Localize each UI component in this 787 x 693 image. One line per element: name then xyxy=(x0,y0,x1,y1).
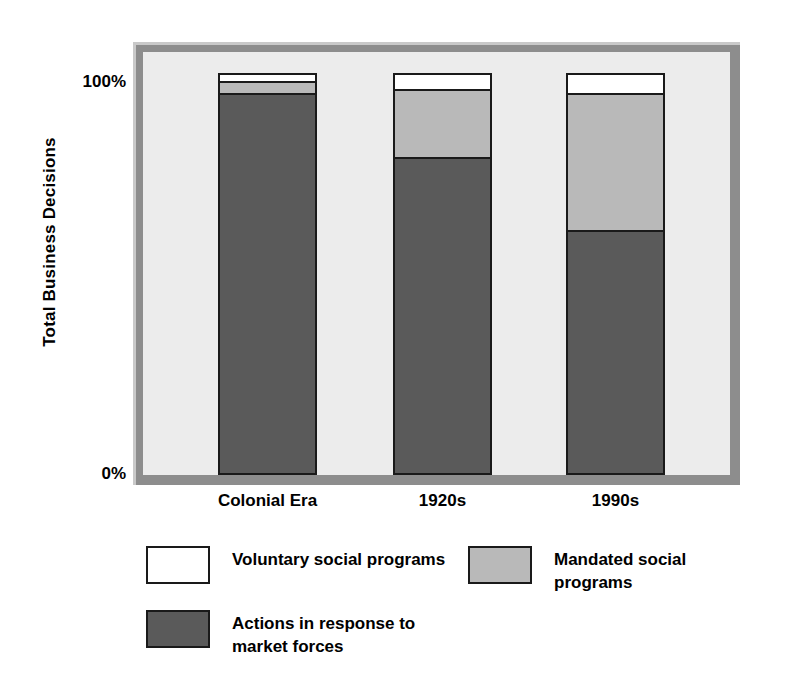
bar-segment-mandated xyxy=(395,91,490,159)
legend-swatch-market-forces-icon xyxy=(146,610,210,648)
y-axis-tick-label-0: 0% xyxy=(64,464,126,484)
legend-label-mandated: Mandated social programs xyxy=(554,545,686,595)
plot-area xyxy=(143,52,730,475)
y-axis-title: Total Business Decisions xyxy=(40,112,68,372)
legend-item-market-forces[interactable]: Actions in response to market forces xyxy=(146,609,415,659)
bar-colonial-era[interactable] xyxy=(218,73,317,475)
legend-swatch-mandated-icon xyxy=(468,546,532,584)
bar-1920s[interactable] xyxy=(393,73,492,475)
legend-label-market-forces: Actions in response to market forces xyxy=(232,609,415,659)
x-axis-category-label-1990s: 1990s xyxy=(526,491,706,512)
legend: Voluntary social programs Mandated socia… xyxy=(146,545,766,670)
legend-label-voluntary: Voluntary social programs xyxy=(232,545,445,572)
legend-item-mandated[interactable]: Mandated social programs xyxy=(468,545,686,595)
bar-1990s[interactable] xyxy=(566,73,665,475)
x-axis-category-label-1920s: 1920s xyxy=(353,491,533,512)
bar-segment-voluntary xyxy=(395,75,490,91)
y-axis-tick-label-100: 100% xyxy=(64,72,126,92)
legend-swatch-voluntary-icon xyxy=(146,546,210,584)
bar-segment-voluntary xyxy=(220,75,315,83)
bar-segment-market-forces xyxy=(568,232,663,473)
legend-item-voluntary[interactable]: Voluntary social programs xyxy=(146,545,445,584)
stacked-bar-chart: Total Business Decisions 100% 0% Colonia… xyxy=(0,0,787,693)
bar-segment-mandated xyxy=(568,95,663,232)
bar-segment-market-forces xyxy=(220,95,315,473)
bar-segment-market-forces xyxy=(395,159,490,473)
bar-segment-mandated xyxy=(220,83,315,95)
bar-segment-voluntary xyxy=(568,75,663,95)
x-axis-category-label-colonial-era: Colonial Era xyxy=(178,491,358,512)
plot-frame xyxy=(133,42,740,485)
